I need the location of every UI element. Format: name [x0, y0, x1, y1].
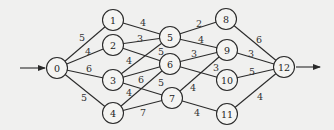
edge-weight-5-9: 4	[198, 34, 204, 45]
edge-weight-7-9: 4	[190, 82, 196, 93]
edge-weight-5-8: 2	[196, 18, 202, 29]
node-label: 1	[110, 15, 116, 26]
node-label: 9	[224, 45, 230, 56]
node-3: 3	[103, 70, 124, 91]
edge-weight-4-6: 5	[158, 77, 164, 88]
node-0: 0	[47, 58, 68, 79]
node-label: 7	[169, 93, 175, 104]
edge-weight-4-7: 7	[140, 107, 146, 118]
node-4: 4	[103, 103, 124, 124]
edge-weight-11-12: 4	[257, 91, 263, 102]
edge-weight-8-12: 6	[256, 34, 262, 45]
edge-weight-3-5: 5	[158, 46, 164, 57]
node-5: 5	[160, 27, 181, 48]
edge-weight-3-7: 4	[126, 87, 132, 98]
node-label: 11	[221, 109, 233, 120]
node-12: 12	[274, 57, 295, 78]
node-9: 9	[217, 40, 238, 61]
edge-weight-2-5: 3	[137, 33, 143, 44]
graph-svg: 5465434564572433446354 0123456789101112	[0, 0, 334, 130]
edge-weight-10-12: 5	[249, 66, 255, 77]
edge-weight-7-11: 4	[194, 107, 200, 118]
node-label: 12	[278, 62, 290, 73]
node-11: 11	[217, 104, 238, 125]
edge-weight-1-5: 4	[140, 17, 146, 28]
edge-weight-9-12: 3	[248, 48, 254, 59]
nodes-layer: 0123456789101112	[47, 9, 295, 125]
node-10: 10	[217, 70, 238, 91]
node-label: 8	[223, 14, 229, 25]
edge-weight-0-1: 5	[79, 32, 85, 43]
node-label: 6	[167, 59, 173, 70]
edge-weight-0-2: 4	[85, 46, 91, 57]
edge-weight-3-6: 6	[138, 74, 144, 85]
node-label: 3	[110, 75, 116, 86]
node-label: 10	[221, 75, 233, 86]
edge-weight-2-6: 4	[126, 55, 132, 66]
node-6: 6	[160, 54, 181, 75]
edge-weight-6-10: 3	[213, 62, 219, 73]
edge-weight-0-4: 5	[81, 92, 87, 103]
node-label: 5	[167, 32, 173, 43]
node-label: 4	[110, 108, 116, 119]
node-label: 0	[54, 63, 60, 74]
node-7: 7	[162, 88, 183, 109]
node-label: 2	[110, 40, 116, 51]
node-2: 2	[103, 35, 124, 56]
node-8: 8	[216, 9, 237, 30]
edge-weight-6-9: 3	[191, 48, 197, 59]
node-1: 1	[103, 10, 124, 31]
graph-diagram: 5465434564572433446354 0123456789101112	[0, 0, 334, 130]
edge-weight-0-3: 6	[86, 63, 92, 74]
